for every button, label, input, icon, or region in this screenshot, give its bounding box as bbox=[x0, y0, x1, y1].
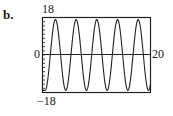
graph-plot bbox=[0, 0, 173, 116]
